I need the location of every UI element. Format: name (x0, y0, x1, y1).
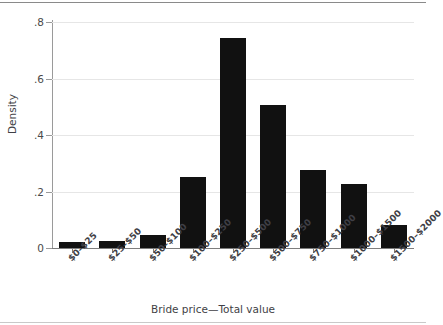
y-tick-mark (46, 135, 52, 136)
y-tick-label: .8 (4, 17, 44, 28)
y-axis-title: Density (6, 94, 18, 134)
y-tick-mark (46, 192, 52, 193)
bottom-divider (0, 322, 426, 323)
y-tick-mark (46, 22, 52, 23)
x-axis-title: Bride price—Total value (0, 303, 426, 315)
bar (300, 170, 326, 248)
top-divider (0, 2, 426, 3)
plot-area (52, 18, 414, 248)
y-tick-mark (46, 79, 52, 80)
y-tick-mark (46, 248, 52, 249)
bar (220, 38, 246, 248)
y-tick-label: .2 (4, 186, 44, 197)
bar (180, 177, 206, 248)
gridline (52, 22, 414, 23)
y-tick-label: 0 (4, 243, 44, 254)
y-tick-label: .6 (4, 73, 44, 84)
